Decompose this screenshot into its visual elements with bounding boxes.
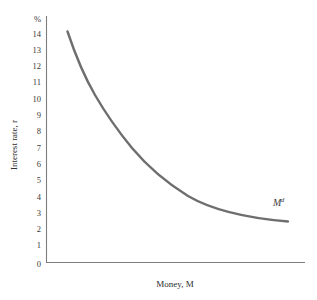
y-tick-label-13: 13 [33, 45, 42, 55]
y-tick-label-4: 4 [37, 192, 42, 202]
y-axis-unit-label: % [34, 14, 41, 24]
y-tick-label-9: 9 [37, 110, 41, 120]
y-tick-label-0: 0 [37, 259, 41, 269]
y-tick-label-3: 3 [37, 208, 41, 218]
y-tick-label-2: 2 [37, 224, 41, 234]
money-demand-chart: % 14 13 12 11 10 9 8 7 6 5 4 3 2 1 0 Int… [0, 0, 317, 300]
y-axis-title: Interest rate, r [9, 120, 19, 170]
y-tick-label-5: 5 [37, 175, 41, 185]
y-tick-label-11: 11 [33, 77, 41, 87]
chart-canvas: % 14 13 12 11 10 9 8 7 6 5 4 3 2 1 0 Int… [0, 0, 317, 300]
y-tick-label-10: 10 [33, 94, 42, 104]
x-axis-title: Money, M [156, 279, 193, 289]
money-demand-curve [68, 32, 289, 222]
y-tick-label-14: 14 [33, 29, 42, 39]
y-tick-label-8: 8 [37, 126, 41, 136]
y-tick-label-1: 1 [37, 240, 41, 250]
money-demand-curve-label-superscript: d [281, 196, 285, 203]
y-tick-label-7: 7 [37, 143, 41, 153]
y-tick-label-12: 12 [33, 61, 42, 71]
y-tick-label-6: 6 [37, 159, 41, 169]
